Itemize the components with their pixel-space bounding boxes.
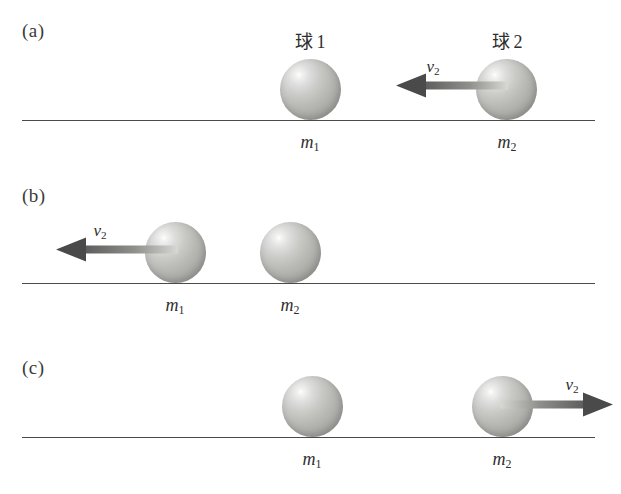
panel-a-mass-1-subscript: 1 bbox=[314, 140, 320, 154]
panel-a-ball1-caption-number: 1 bbox=[317, 32, 326, 52]
panel-b-ball-2 bbox=[260, 222, 321, 283]
panel-b-mass-1-label: m1 bbox=[166, 295, 185, 318]
panel-c-ball-1 bbox=[282, 376, 343, 437]
panel-a-velocity-subscript: 2 bbox=[434, 65, 440, 77]
panel-c-velocity-symbol: v bbox=[565, 375, 573, 394]
panel-c-mass-2-subscript: 2 bbox=[506, 457, 512, 471]
panel-a-ball2-caption-number: 2 bbox=[514, 32, 523, 52]
physics-figure: (a) 球1 球2 v2 bbox=[0, 0, 621, 494]
panel-c-mass-2-label: m2 bbox=[493, 449, 512, 472]
panel-a-ball1-caption-word: 球 bbox=[295, 31, 313, 52]
panel-a-ball-1 bbox=[280, 59, 341, 120]
panel-a-mass-1-symbol: m bbox=[301, 132, 314, 152]
panel-a: (a) 球1 球2 v2 bbox=[0, 0, 621, 165]
panel-b-mass-2-symbol: m bbox=[281, 295, 294, 315]
panel-c-baseline bbox=[22, 437, 595, 438]
panel-b-baseline bbox=[22, 283, 595, 284]
panel-b-mass-2-subscript: 2 bbox=[294, 303, 300, 317]
panel-a-velocity-symbol: v bbox=[426, 57, 434, 76]
panel-c-velocity-arrow-right bbox=[500, 391, 613, 418]
panel-a-mass-1-label: m1 bbox=[301, 132, 320, 155]
panel-c-velocity-subscript: 2 bbox=[573, 383, 579, 395]
panel-c-mass-1-label: m1 bbox=[303, 449, 322, 472]
panel-a-velocity-arrow-left bbox=[396, 72, 508, 99]
panel-a-baseline bbox=[22, 120, 595, 121]
panel-a-ball2-caption-word: 球 bbox=[492, 31, 510, 52]
panel-a-ball1-caption: 球1 bbox=[295, 27, 326, 53]
panel-a-mass-2-label: m2 bbox=[498, 132, 517, 155]
panel-c-velocity-label: v2 bbox=[565, 375, 578, 395]
panel-c-label: (c) bbox=[22, 357, 45, 379]
panel-a-label: (a) bbox=[22, 20, 45, 42]
panel-c-mass-1-symbol: m bbox=[303, 449, 316, 469]
panel-a-velocity-label: v2 bbox=[426, 57, 439, 77]
panel-c-mass-1-subscript: 1 bbox=[316, 457, 322, 471]
panel-b-velocity-arrow-left bbox=[56, 236, 178, 263]
panel-c-mass-2-symbol: m bbox=[493, 449, 506, 469]
panel-a-mass-2-subscript: 2 bbox=[511, 140, 517, 154]
panel-a-ball2-caption: 球2 bbox=[492, 27, 523, 53]
panel-c: (c) v2 m1 bbox=[0, 330, 621, 494]
panel-a-mass-2-symbol: m bbox=[498, 132, 511, 152]
panel-b: (b) v2 m1 bbox=[0, 165, 621, 330]
panel-b-mass-1-subscript: 1 bbox=[179, 303, 185, 317]
panel-b-mass-2-label: m2 bbox=[281, 295, 300, 318]
panel-b-velocity-symbol: v bbox=[93, 221, 101, 240]
panel-b-label: (b) bbox=[22, 185, 46, 207]
panel-b-mass-1-symbol: m bbox=[166, 295, 179, 315]
panel-b-velocity-subscript: 2 bbox=[101, 229, 107, 241]
panel-b-velocity-label: v2 bbox=[93, 221, 106, 241]
